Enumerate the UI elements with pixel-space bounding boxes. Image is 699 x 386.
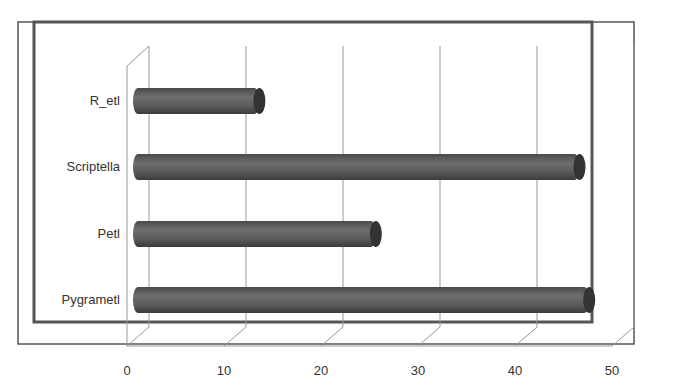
- bar-r_etl: [133, 88, 265, 114]
- bar-pygrametl: [133, 287, 595, 313]
- x-tick-label: 30: [403, 363, 433, 378]
- x-tick-label: 0: [112, 363, 142, 378]
- category-label: Petl: [10, 226, 120, 241]
- x-tick-label: 10: [209, 363, 239, 378]
- bar-scriptella: [133, 154, 586, 180]
- category-label: R_etl: [10, 93, 120, 108]
- x-tick-label: 20: [306, 363, 336, 378]
- category-label: Scriptella: [10, 159, 120, 174]
- bar-petl: [133, 221, 382, 247]
- chart-canvas: [0, 0, 699, 386]
- x-tick-label: 40: [500, 363, 530, 378]
- x-tick-label: 50: [597, 363, 627, 378]
- category-label: Pygrametl: [10, 292, 120, 307]
